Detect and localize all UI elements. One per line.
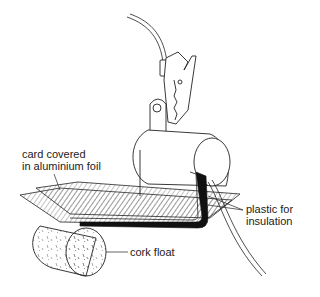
label-card-line1: card covered: [22, 148, 86, 160]
diagram-canvas: card covered in aluminium foil plastic f…: [0, 0, 320, 297]
cork-float: [33, 226, 106, 276]
wire-top: [127, 14, 167, 62]
label-card-line2: in aluminium foil: [22, 160, 101, 172]
label-plastic-line2: insulation: [246, 215, 292, 227]
label-cork-float: cork float: [130, 246, 175, 258]
label-plastic-line1: plastic for: [246, 203, 293, 215]
